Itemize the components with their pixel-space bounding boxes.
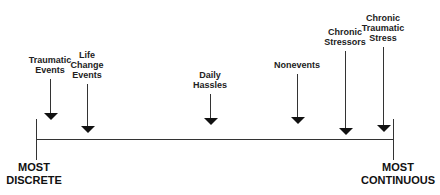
event-label: DailyHassles (193, 70, 227, 90)
arrow-shaft (210, 94, 211, 118)
left-end-label: MOST DISCRETE (6, 161, 62, 187)
right-end-tick (393, 119, 394, 160)
arrow-shaft (297, 74, 298, 117)
left-end-tick (36, 119, 37, 160)
arrow-shaft (345, 51, 346, 128)
arrow-shaft (87, 84, 88, 126)
arrow-down-icon (291, 117, 305, 124)
right-end-label: MOST CONTINUOUS (361, 161, 435, 187)
event-label: TraumaticEvents (29, 55, 72, 75)
arrow-down-icon (339, 128, 353, 135)
arrow-down-icon (204, 118, 218, 125)
event-label: Nonevents (274, 60, 320, 70)
arrow-shaft (383, 47, 384, 125)
arrow-shaft (50, 79, 51, 113)
event-label: ChronicTraumaticStress (362, 13, 405, 43)
arrow-down-icon (81, 126, 95, 133)
arrow-down-icon (377, 125, 391, 132)
event-label: LifeChangeEvents (70, 50, 103, 80)
continuum-axis-line (36, 139, 394, 140)
event-label: ChronicStressors (324, 27, 366, 47)
arrow-down-icon (44, 113, 58, 120)
